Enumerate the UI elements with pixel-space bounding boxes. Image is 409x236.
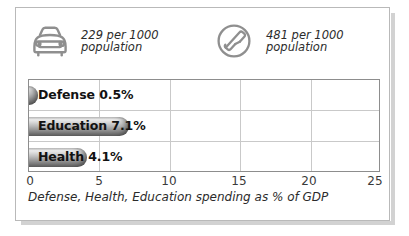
x-tick-20: 20 bbox=[301, 174, 316, 188]
x-tick-15: 15 bbox=[231, 174, 246, 188]
bar-label-health: Health 4.1% bbox=[38, 149, 122, 165]
x-tick-10: 10 bbox=[161, 174, 176, 188]
bar-label-education: Education 7.1% bbox=[38, 118, 146, 134]
x-tick-25: 25 bbox=[367, 174, 382, 188]
stat-telephones-text: 481 per 1000 population bbox=[266, 29, 344, 54]
chart-x-axis: 0 5 10 15 20 25 bbox=[28, 172, 380, 190]
bar-row-health: Health 4.1% bbox=[29, 142, 379, 172]
bar-defense[interactable] bbox=[29, 86, 38, 105]
gdp-spending-bar-chart: Defense 0.5% Education 7.1% Health 4.1% … bbox=[28, 79, 380, 209]
infographic-card: 229 per 1000 population 481 per 1000 pop… bbox=[15, 7, 390, 221]
telephone-icon bbox=[213, 22, 257, 60]
bar-row-education: Education 7.1% bbox=[29, 111, 379, 142]
card-drop-shadow-bottom bbox=[21, 221, 395, 225]
bar-label-defense: Defense 0.5% bbox=[38, 87, 133, 103]
chart-caption: Defense, Health, Education spending as %… bbox=[28, 190, 380, 204]
stat-telephones-per-1000: 481 per 1000 population bbox=[213, 22, 344, 60]
stat-cars-line2: population bbox=[81, 41, 159, 54]
statistics-row: 229 per 1000 population 481 per 1000 pop… bbox=[16, 8, 391, 74]
x-tick-5: 5 bbox=[95, 174, 103, 188]
card-drop-shadow-right bbox=[391, 13, 395, 224]
stat-telephones-line2: population bbox=[266, 41, 344, 54]
bar-row-defense: Defense 0.5% bbox=[29, 80, 379, 111]
car-icon bbox=[28, 22, 72, 60]
stat-cars-text: 229 per 1000 population bbox=[81, 29, 159, 54]
x-tick-0: 0 bbox=[26, 174, 34, 188]
chart-plot-area: Defense 0.5% Education 7.1% Health 4.1% bbox=[28, 79, 380, 172]
stat-cars-per-1000: 229 per 1000 population bbox=[28, 22, 159, 60]
